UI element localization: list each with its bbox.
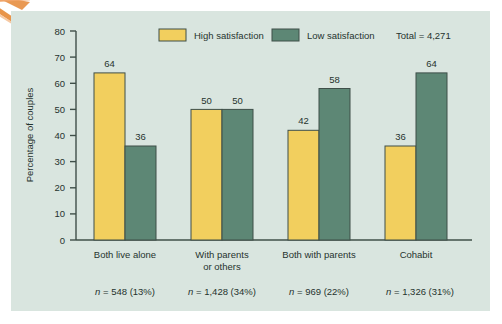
bar-high-satisfaction-g2[interactable] bbox=[191, 109, 222, 240]
category-label-1: Both live alone bbox=[94, 249, 156, 260]
bar-group-cohabit: 36 64 bbox=[385, 58, 447, 240]
y-tick-label-30: 30 bbox=[54, 156, 65, 167]
chart-legend: High satisfaction Low satisfaction Total… bbox=[159, 29, 451, 41]
bar-low-satisfaction-g4[interactable] bbox=[416, 73, 447, 240]
y-tick-label-60: 60 bbox=[54, 78, 65, 89]
bar-low-satisfaction-g1[interactable] bbox=[125, 146, 156, 240]
y-tick-label-50: 50 bbox=[54, 104, 65, 115]
sample-size-annotations: n = 548 (13%) n = 1,428 (34%) n = 969 (2… bbox=[95, 286, 454, 297]
bar-low-satisfaction-g2[interactable] bbox=[222, 109, 253, 240]
bar-value-low-g2: 50 bbox=[232, 95, 243, 106]
legend-swatch-high-satisfaction bbox=[159, 29, 186, 41]
bar-high-satisfaction-g1[interactable] bbox=[94, 73, 125, 240]
bar-group-both-live-alone: 64 36 bbox=[94, 58, 156, 240]
y-tick-label-40: 40 bbox=[54, 130, 65, 141]
y-tick-label-70: 70 bbox=[54, 52, 65, 63]
sample-size-1-value: = 548 (13%) bbox=[100, 286, 155, 297]
sample-size-1: n = 548 (13%) bbox=[95, 286, 155, 297]
sample-size-4-value: = 1,326 (31%) bbox=[391, 286, 454, 297]
y-tick-label-10: 10 bbox=[54, 208, 65, 219]
bar-value-high-g1: 64 bbox=[104, 58, 115, 69]
bar-group-both-with-parents: 42 58 bbox=[288, 74, 350, 240]
bar-value-low-g1: 36 bbox=[135, 131, 146, 142]
legend-label-high-satisfaction: High satisfaction bbox=[194, 30, 264, 41]
y-tick-label-0: 0 bbox=[60, 235, 65, 246]
category-label-4: Cohabit bbox=[400, 249, 433, 260]
bar-value-low-g4: 64 bbox=[426, 58, 437, 69]
bar-value-high-g3: 42 bbox=[298, 115, 309, 126]
y-tick-label-20: 20 bbox=[54, 182, 65, 193]
sample-size-2-value: = 1,428 (34%) bbox=[193, 286, 256, 297]
bar-value-high-g4: 36 bbox=[395, 131, 406, 142]
bar-group-with-parents-or-others: 50 50 bbox=[191, 95, 253, 241]
y-axis-title: Percentage of couples bbox=[24, 87, 35, 182]
legend-swatch-low-satisfaction bbox=[272, 29, 299, 41]
x-axis-category-labels: Both live alone With parents or others B… bbox=[94, 249, 433, 272]
sample-size-3-value: = 969 (22%) bbox=[294, 286, 349, 297]
total-annotation: Total = 4,271 bbox=[396, 30, 451, 41]
bar-chart: High satisfaction Low satisfaction Total… bbox=[11, 11, 490, 311]
sample-size-4: n = 1,326 (31%) bbox=[386, 286, 454, 297]
category-label-2-line1: With parents bbox=[195, 249, 249, 260]
y-axis: 80 70 60 50 40 30 20 10 0 Percentage of … bbox=[24, 26, 76, 246]
bar-high-satisfaction-g3[interactable] bbox=[288, 130, 319, 240]
bar-value-low-g3: 58 bbox=[329, 74, 340, 85]
bar-value-high-g2: 50 bbox=[201, 95, 212, 106]
category-label-3: Both with parents bbox=[282, 249, 356, 260]
bar-high-satisfaction-g4[interactable] bbox=[385, 146, 416, 240]
y-tick-label-80: 80 bbox=[54, 26, 65, 37]
legend-label-low-satisfaction: Low satisfaction bbox=[307, 30, 375, 41]
category-label-2-line2: or others bbox=[203, 261, 241, 272]
chart-panel: High satisfaction Low satisfaction Total… bbox=[11, 11, 490, 311]
bar-low-satisfaction-g3[interactable] bbox=[319, 89, 350, 241]
sample-size-3: n = 969 (22%) bbox=[289, 286, 349, 297]
sample-size-2: n = 1,428 (34%) bbox=[188, 286, 256, 297]
